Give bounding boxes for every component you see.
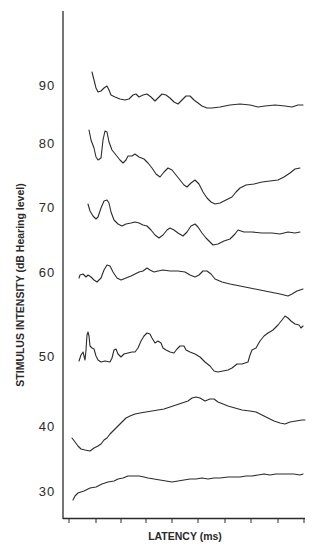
- y-label-90: 90: [39, 78, 55, 93]
- y-label-60: 60: [39, 265, 55, 280]
- trace-90-db: [92, 72, 303, 108]
- y-axis-title: STIMULUS INTENSITY (dB Hearing level): [14, 183, 26, 386]
- y-label-30: 30: [39, 484, 55, 499]
- trace-50-db: [79, 316, 303, 372]
- trace-40-db: [72, 397, 305, 451]
- trace-80-db: [89, 130, 300, 204]
- x-axis-title: LATENCY (ms): [148, 530, 222, 542]
- y-label-70: 70: [39, 200, 55, 215]
- trace-30-db: [73, 474, 303, 500]
- y-label-40: 40: [39, 419, 55, 434]
- x-axis-ticks: [69, 519, 304, 523]
- trace-70-db: [88, 200, 300, 245]
- trace-60-db: [79, 265, 303, 296]
- evoked-response-chart: 90 80 70 60 50 40 30 STIMULUS INTENSITY …: [0, 0, 318, 554]
- y-label-80: 80: [39, 136, 55, 151]
- y-label-50: 50: [39, 349, 55, 364]
